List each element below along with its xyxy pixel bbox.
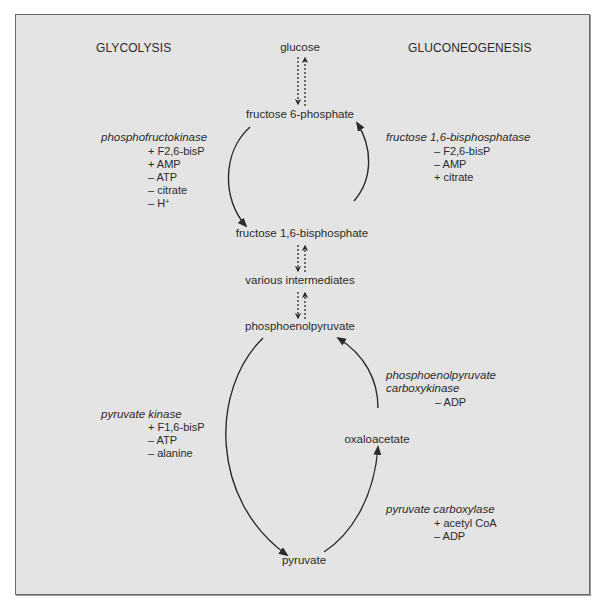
arrow-pepck (338, 338, 378, 408)
metabolite-glucose: glucose (280, 41, 320, 54)
pepck-modulator: – ADP (435, 396, 466, 409)
dashed-arrows-intermediates-pep (298, 292, 305, 319)
pk-modulator: – alanine (148, 447, 205, 460)
metabolite-pyruvate: pyruvate (282, 554, 326, 567)
pfk-modulator-h: – H+ (148, 197, 205, 210)
pfk-modulator: – ATP (148, 171, 205, 184)
arrow-fbpase (354, 123, 369, 201)
enzyme-pyruvate-kinase: pyruvate kinase (101, 408, 182, 421)
pathway-arrows (0, 0, 603, 605)
enzyme-phosphofructokinase: phosphofructokinase (101, 131, 207, 144)
pfk-modulator: + AMP (148, 158, 205, 171)
fbpase-modulator: – AMP (434, 158, 490, 171)
enzyme-pepck-line1: phosphoenolpyruvate (386, 369, 496, 382)
pc-modulators: + acetyl CoA – ADP (434, 517, 497, 543)
pc-modulator: – ADP (434, 530, 497, 543)
pk-modulators: + F1,6-bisP – ATP – alanine (148, 421, 205, 460)
arrow-pyruvate-kinase (226, 338, 287, 555)
dashed-arrows-glucose-f6p (298, 57, 305, 106)
enzyme-pyruvate-carboxylase: pyruvate carboxylase (386, 503, 495, 516)
pfk-modulator: – citrate (148, 184, 205, 197)
arrow-pyruvate-carboxylase (324, 447, 378, 552)
pfk-modulator: + F2,6-bisP (148, 145, 205, 158)
pepck-modulators: – ADP (435, 396, 466, 409)
fbpase-modulator: – F2,6-bisP (434, 145, 490, 158)
pfk-modulators: + F2,6-bisP + AMP – ATP – citrate – H+ (148, 145, 205, 210)
enzyme-pepck-line2: carboxykinase (386, 382, 460, 395)
h-plus-superscript: + (165, 198, 169, 205)
fbpase-modulator: + citrate (434, 171, 490, 184)
metabolite-phosphoenolpyruvate: phosphoenolpyruvate (245, 320, 355, 333)
pk-modulator: – ATP (148, 434, 205, 447)
metabolite-oxaloacetate: oxaloacetate (344, 433, 409, 446)
metabolite-fructose-1-6-bisphosphate: fructose 1,6-bisphosphate (236, 227, 368, 240)
enzyme-fructose-1-6-bisphosphatase: fructose 1,6-bisphosphatase (386, 131, 530, 144)
fbpase-modulators: – F2,6-bisP – AMP + citrate (434, 145, 490, 184)
arrow-pfk (228, 127, 250, 226)
dashed-arrows-f16bp-intermediates (298, 245, 305, 272)
pc-modulator: + acetyl CoA (434, 517, 497, 530)
header-gluconeogenesis: GLUCONEOGENESIS (408, 42, 532, 55)
header-glycolysis: GLYCOLYSIS (96, 42, 171, 55)
metabolite-various-intermediates: various intermediates (245, 274, 354, 287)
metabolite-fructose-6-phosphate: fructose 6-phosphate (246, 108, 354, 121)
pk-modulator: + F1,6-bisP (148, 421, 205, 434)
